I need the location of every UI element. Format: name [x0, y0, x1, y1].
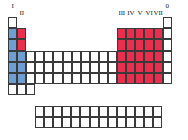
element-cell[interactable] [81, 73, 90, 84]
f-block-element-cell[interactable] [71, 106, 80, 117]
element-cell[interactable] [44, 51, 53, 62]
element-cell[interactable] [154, 62, 163, 73]
f-block-element-cell[interactable] [35, 106, 44, 117]
element-cell[interactable] [81, 62, 90, 73]
f-block-element-cell[interactable] [53, 106, 62, 117]
element-cell[interactable] [108, 51, 117, 62]
element-cell[interactable] [163, 51, 172, 62]
element-cell[interactable] [17, 28, 26, 39]
f-block-element-cell[interactable] [108, 106, 117, 117]
element-cell[interactable] [26, 84, 35, 95]
element-cell[interactable] [44, 62, 53, 73]
element-cell[interactable] [8, 51, 17, 62]
element-cell[interactable] [53, 73, 62, 84]
element-cell[interactable] [126, 62, 135, 73]
element-cell[interactable] [154, 51, 163, 62]
element-cell[interactable] [72, 73, 81, 84]
element-cell[interactable] [144, 73, 153, 84]
element-cell[interactable] [63, 62, 72, 73]
element-cell[interactable] [117, 39, 126, 50]
f-block-element-cell[interactable] [44, 106, 53, 117]
f-block-element-cell[interactable] [108, 117, 117, 128]
element-cell[interactable] [17, 62, 26, 73]
element-cell[interactable] [117, 51, 126, 62]
element-cell[interactable] [144, 39, 153, 50]
element-cell[interactable] [17, 39, 26, 50]
element-cell[interactable] [8, 73, 17, 84]
element-cell[interactable] [135, 28, 144, 39]
element-cell[interactable] [126, 39, 135, 50]
element-cell[interactable] [126, 28, 135, 39]
element-cell[interactable] [8, 62, 17, 73]
element-cell[interactable] [154, 28, 163, 39]
element-cell[interactable] [35, 51, 44, 62]
element-cell[interactable] [163, 28, 172, 39]
element-cell[interactable] [90, 62, 99, 73]
f-block-element-cell[interactable] [117, 106, 126, 117]
f-block-element-cell[interactable] [80, 117, 89, 128]
element-cell[interactable] [144, 28, 153, 39]
element-cell[interactable] [144, 62, 153, 73]
f-block-element-cell[interactable] [117, 117, 126, 128]
f-block-element-cell[interactable] [80, 106, 89, 117]
element-cell[interactable] [135, 51, 144, 62]
element-cell[interactable] [8, 17, 17, 28]
element-cell[interactable] [90, 51, 99, 62]
element-cell[interactable] [126, 51, 135, 62]
f-block-element-cell[interactable] [62, 106, 71, 117]
f-block-element-cell[interactable] [90, 117, 99, 128]
element-cell[interactable] [26, 62, 35, 73]
element-cell[interactable] [90, 73, 99, 84]
element-cell[interactable] [163, 17, 172, 28]
f-block-element-cell[interactable] [44, 117, 53, 128]
element-cell[interactable] [144, 51, 153, 62]
element-cell[interactable] [135, 39, 144, 50]
element-cell[interactable] [35, 73, 44, 84]
f-block-element-cell[interactable] [135, 117, 144, 128]
element-cell[interactable] [53, 62, 62, 73]
element-cell[interactable] [108, 73, 117, 84]
element-cell[interactable] [72, 62, 81, 73]
f-block-element-cell[interactable] [99, 117, 108, 128]
f-block-element-cell[interactable] [135, 106, 144, 117]
element-cell[interactable] [8, 28, 17, 39]
element-cell[interactable] [63, 73, 72, 84]
element-cell[interactable] [154, 39, 163, 50]
element-cell[interactable] [17, 51, 26, 62]
element-cell[interactable] [117, 62, 126, 73]
element-cell[interactable] [163, 62, 172, 73]
element-cell[interactable] [17, 73, 26, 84]
f-block-element-cell[interactable] [153, 106, 162, 117]
element-cell[interactable] [135, 73, 144, 84]
element-cell[interactable] [81, 51, 90, 62]
element-cell[interactable] [17, 84, 26, 95]
element-cell[interactable] [72, 51, 81, 62]
element-cell[interactable] [163, 39, 172, 50]
element-cell[interactable] [126, 73, 135, 84]
element-cell[interactable] [117, 73, 126, 84]
element-cell[interactable] [53, 51, 62, 62]
f-block-element-cell[interactable] [90, 106, 99, 117]
f-block-element-cell[interactable] [126, 106, 135, 117]
element-cell[interactable] [63, 51, 72, 62]
element-cell[interactable] [117, 28, 126, 39]
f-block-element-cell[interactable] [153, 117, 162, 128]
f-block-element-cell[interactable] [144, 106, 153, 117]
element-cell[interactable] [99, 51, 108, 62]
f-block-element-cell[interactable] [62, 117, 71, 128]
element-cell[interactable] [108, 62, 117, 73]
f-block-element-cell[interactable] [71, 117, 80, 128]
element-cell[interactable] [154, 73, 163, 84]
element-cell[interactable] [44, 73, 53, 84]
element-cell[interactable] [8, 39, 17, 50]
f-block-element-cell[interactable] [53, 117, 62, 128]
f-block-element-cell[interactable] [35, 117, 44, 128]
element-cell[interactable] [8, 84, 17, 95]
element-cell[interactable] [99, 73, 108, 84]
f-block-element-cell[interactable] [144, 117, 153, 128]
f-block-element-cell[interactable] [99, 106, 108, 117]
element-cell[interactable] [35, 62, 44, 73]
element-cell[interactable] [26, 51, 35, 62]
element-cell[interactable] [135, 62, 144, 73]
element-cell[interactable] [26, 73, 35, 84]
